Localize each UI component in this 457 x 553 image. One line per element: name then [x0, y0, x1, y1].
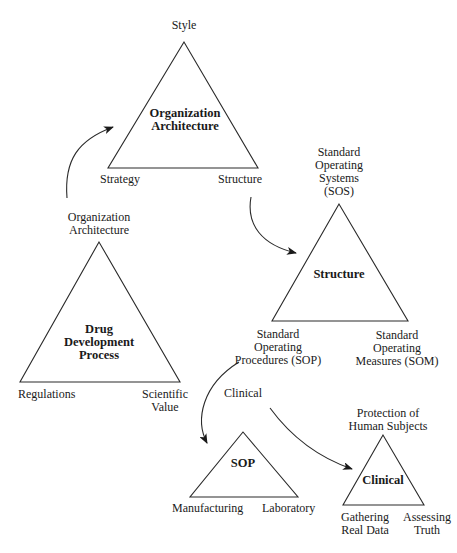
- structure-bottom-left-label: Standard Operating Procedures (SOP): [228, 328, 328, 367]
- triangle-structure: [272, 204, 408, 321]
- structure-bottom-right-label: Standard Operating Measures (SOM): [347, 329, 447, 368]
- structure-top-label: Standard Operating Systems (SOS): [299, 146, 379, 198]
- arrow-org-to-structure: [250, 197, 296, 253]
- center-line: Architecture: [135, 120, 235, 133]
- triangle-clinical: [343, 435, 424, 505]
- clinical-bottom-right-label: Assessing Truth: [392, 511, 457, 537]
- sop-bottom-right-label: Laboratory: [262, 502, 332, 515]
- label-line: Human Subjects: [338, 420, 438, 433]
- label-line: Value: [130, 401, 200, 414]
- sop-center-label: SOP: [223, 457, 263, 470]
- sop-bottom-left-label: Manufacturing: [172, 502, 262, 515]
- clinical-center-label: Clinical: [353, 474, 413, 487]
- label-line: Real Data: [330, 524, 400, 537]
- drug-bottom-right-label: Scientific Value: [130, 388, 200, 414]
- structure-center-label: Structure: [299, 268, 379, 281]
- sop-top-label: Clinical: [213, 387, 273, 400]
- label-line: Procedures (SOP): [228, 354, 328, 367]
- org-bottom-right-label: Structure: [218, 173, 278, 186]
- org-bottom-left-label: Strategy: [100, 173, 160, 186]
- arrow-structure-to-sop: [202, 362, 239, 443]
- diagram-canvas: [0, 0, 457, 553]
- arrow-drug-to-org: [67, 127, 113, 198]
- clinical-top-label: Protection of Human Subjects: [338, 407, 438, 433]
- label-line: (SOS): [299, 185, 379, 198]
- drug-center-label: Drug Development Process: [49, 323, 149, 362]
- label-line: Measures (SOM): [347, 355, 447, 368]
- drug-top-label: Organization Architecture: [49, 211, 149, 237]
- label-line: Architecture: [49, 224, 149, 237]
- center-line: Process: [49, 349, 149, 362]
- triangle-organization-architecture: [108, 42, 258, 168]
- clinical-bottom-left-label: Gathering Real Data: [330, 511, 400, 537]
- org-center-label: Organization Architecture: [135, 107, 235, 133]
- org-top-label: Style: [164, 19, 204, 32]
- drug-bottom-left-label: Regulations: [18, 388, 98, 401]
- label-line: Truth: [392, 524, 457, 537]
